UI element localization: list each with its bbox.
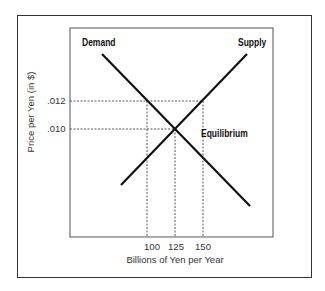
equilibrium-label: Equilibrium <box>201 128 248 139</box>
x-tick-150: 150 <box>195 241 211 252</box>
chart-plot <box>0 0 325 291</box>
x-tick-125: 125 <box>168 241 184 252</box>
y-tick-010: .010 <box>47 123 66 134</box>
demand-label: Demand <box>82 37 116 48</box>
x-axis-label: Billions of Yen per Year <box>126 254 223 265</box>
supply-label: Supply <box>238 37 266 48</box>
y-axis-label: Price per Yen (in $) <box>25 72 36 153</box>
supply-line <box>121 54 247 185</box>
y-tick-012: .012 <box>47 95 66 106</box>
x-tick-100: 100 <box>144 241 160 252</box>
